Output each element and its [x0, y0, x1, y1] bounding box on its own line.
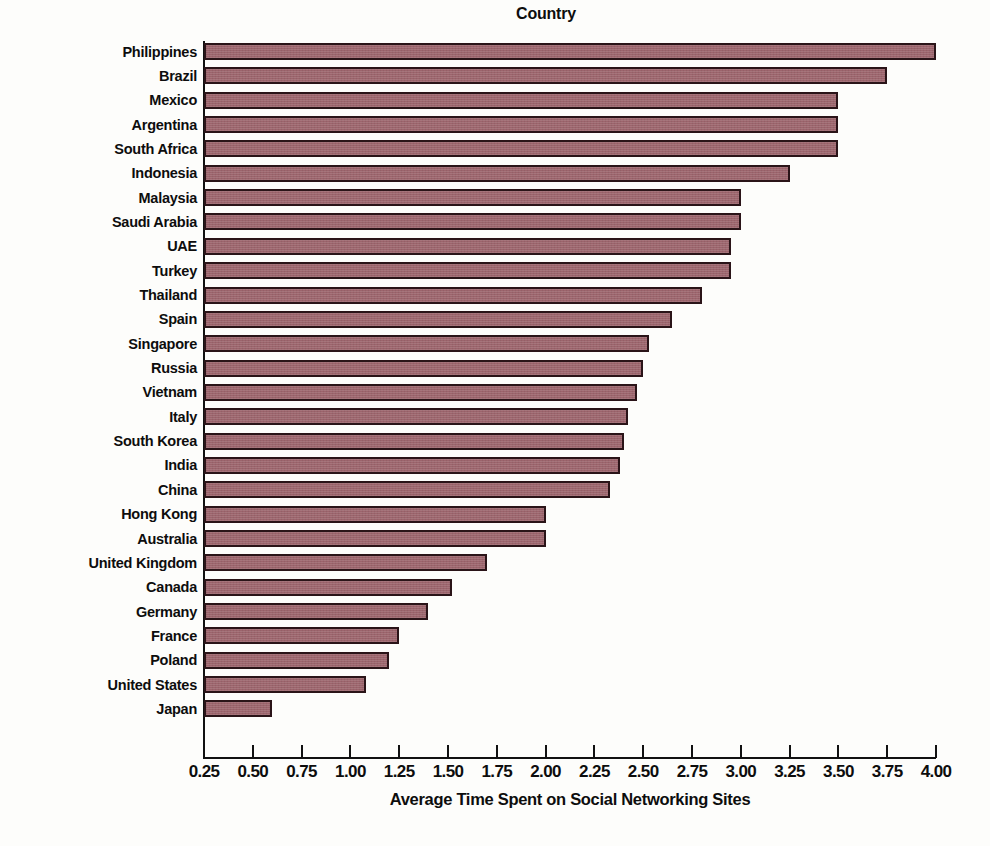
x-tick-label: 2.50: [628, 762, 659, 782]
bar-row: Spain: [0, 311, 990, 328]
category-label: Russia: [151, 360, 197, 376]
x-tick-label: 0.75: [286, 762, 317, 782]
category-label: South Korea: [114, 433, 197, 449]
x-tick: [496, 745, 498, 758]
bar-row: South Korea: [0, 433, 990, 450]
category-label: Thailand: [139, 287, 197, 303]
bar: [204, 335, 649, 352]
x-tick-label: 4.00: [921, 762, 952, 782]
bar-row: UAE: [0, 238, 990, 255]
bar-row: Brazil: [0, 67, 990, 84]
bar: [204, 554, 487, 571]
bar-row: Canada: [0, 579, 990, 596]
bar: [204, 408, 628, 425]
bar: [204, 189, 741, 206]
x-tick-label: 2.75: [677, 762, 708, 782]
bar: [204, 627, 399, 644]
x-tick: [398, 745, 400, 758]
category-label: India: [164, 457, 197, 473]
x-axis-title: Average Time Spent on Social Networking …: [204, 790, 936, 809]
bar: [204, 116, 838, 133]
bar: [204, 287, 702, 304]
bar-row: Germany: [0, 603, 990, 620]
bar-row: Hong Kong: [0, 506, 990, 523]
category-label: Poland: [150, 652, 197, 668]
bar-row: India: [0, 457, 990, 474]
bar: [204, 360, 643, 377]
bar: [204, 311, 672, 328]
category-label: Singapore: [128, 336, 197, 352]
bar: [204, 67, 887, 84]
category-label: China: [158, 482, 197, 498]
x-tick: [301, 745, 303, 758]
category-label: Malaysia: [139, 190, 197, 206]
x-tick-label: 2.25: [579, 762, 610, 782]
bar: [204, 238, 731, 255]
x-tick: [886, 745, 888, 758]
bar: [204, 92, 838, 109]
x-tick: [252, 745, 254, 758]
x-tick: [935, 745, 937, 758]
bar-row: Italy: [0, 408, 990, 425]
category-label: United Kingdom: [89, 555, 197, 571]
bar: [204, 262, 731, 279]
bar-row: Philippines: [0, 43, 990, 60]
category-label: Saudi Arabia: [112, 214, 197, 230]
bar-row: Vietnam: [0, 384, 990, 401]
category-label: Turkey: [152, 263, 197, 279]
bar: [204, 676, 366, 693]
bar-row: Singapore: [0, 335, 990, 352]
category-label: Canada: [146, 579, 197, 595]
category-label: UAE: [167, 238, 197, 254]
plot-area: PhilippinesBrazilMexicoArgentinaSouth Af…: [0, 0, 990, 846]
category-label: Spain: [159, 311, 197, 327]
bar: [204, 700, 272, 717]
x-tick: [837, 745, 839, 758]
bar-row: United Kingdom: [0, 554, 990, 571]
x-tick-label: 3.50: [823, 762, 854, 782]
bar: [204, 530, 546, 547]
bar: [204, 579, 452, 596]
category-label: Argentina: [132, 117, 197, 133]
x-tick: [740, 745, 742, 758]
bar-row: Australia: [0, 530, 990, 547]
bar: [204, 43, 936, 60]
bar-row: Argentina: [0, 116, 990, 133]
x-tick: [642, 745, 644, 758]
bar-row: China: [0, 481, 990, 498]
bar-row: Indonesia: [0, 165, 990, 182]
x-tick-label: 0.25: [189, 762, 220, 782]
category-label: Mexico: [149, 92, 197, 108]
x-tick: [545, 745, 547, 758]
bar-row: United States: [0, 676, 990, 693]
bar: [204, 603, 428, 620]
bar-row: Saudi Arabia: [0, 213, 990, 230]
x-tick: [691, 745, 693, 758]
bar: [204, 457, 620, 474]
category-label: South Africa: [114, 141, 197, 157]
category-label: Italy: [169, 409, 197, 425]
x-tick: [789, 745, 791, 758]
bar-row: Russia: [0, 360, 990, 377]
bar: [204, 433, 624, 450]
bar-row: Turkey: [0, 262, 990, 279]
bar-row: Malaysia: [0, 189, 990, 206]
category-label: Australia: [137, 531, 197, 547]
bar-row: South Africa: [0, 140, 990, 157]
bar-row: France: [0, 627, 990, 644]
bar-row: Mexico: [0, 92, 990, 109]
x-tick-label: 1.50: [433, 762, 464, 782]
category-label: Japan: [156, 701, 197, 717]
bar: [204, 165, 790, 182]
x-tick-label: 0.50: [237, 762, 268, 782]
bar: [204, 213, 741, 230]
category-label: France: [151, 628, 197, 644]
x-tick-label: 2.00: [530, 762, 561, 782]
bar-row: Poland: [0, 652, 990, 669]
category-label: United States: [108, 677, 197, 693]
x-tick: [447, 745, 449, 758]
x-tick-label: 3.00: [725, 762, 756, 782]
x-tick-label: 3.25: [774, 762, 805, 782]
bar-row: Thailand: [0, 287, 990, 304]
x-tick: [203, 745, 205, 758]
